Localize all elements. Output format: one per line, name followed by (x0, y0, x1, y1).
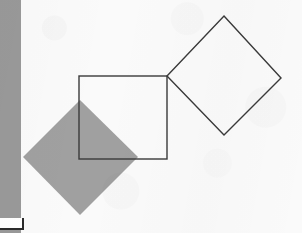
geometric-figure (0, 0, 302, 233)
figure-canvas (0, 0, 302, 233)
outlined-rotated-square (167, 16, 281, 135)
shapes-group (23, 16, 281, 215)
shaded-rotated-square (23, 100, 138, 215)
